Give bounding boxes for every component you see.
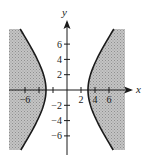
y-axis: y xyxy=(61,6,71,155)
y-tick-label: 2 xyxy=(57,69,62,80)
x-axis-label: x xyxy=(135,83,141,95)
x-tick-label: 4 xyxy=(93,94,98,105)
y-tick-label: 4 xyxy=(57,54,62,65)
x-tick-label: 6 xyxy=(107,94,112,105)
y-tick-label: 6 xyxy=(57,39,62,50)
x-tick-label: 2 xyxy=(79,94,84,105)
x-tick-label: −6 xyxy=(20,94,31,105)
y-tick-label: −6 xyxy=(51,130,62,141)
y-axis-label: y xyxy=(61,6,67,18)
hyperbola-graph: x y −6246642−2−4−6 xyxy=(0,0,143,162)
y-tick-label: −4 xyxy=(51,115,62,126)
y-tick-label: −2 xyxy=(51,100,62,111)
